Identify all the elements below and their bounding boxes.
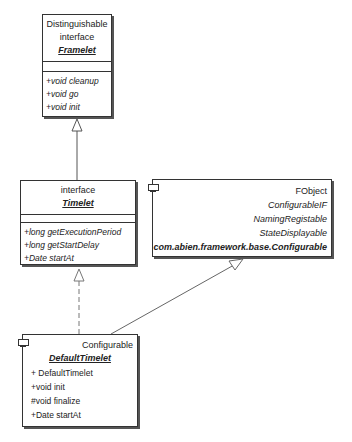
interface-label: NamingRegistable: [153, 212, 327, 226]
operation: +void go: [46, 88, 111, 101]
operation: #void finalize: [31, 394, 137, 408]
attributes-compartment: [21, 214, 135, 222]
class-label: FObject: [153, 184, 327, 198]
interface-label: StateDisplayable: [153, 226, 327, 240]
class-name: Framelet: [43, 44, 111, 57]
operation: +void cleanup: [46, 75, 111, 88]
operation: +void init: [46, 101, 111, 114]
component-icon: [18, 339, 29, 346]
stereotype: interface: [21, 184, 135, 197]
operation: +long getExecutionPeriod: [24, 226, 135, 239]
stereotype: Configurable: [23, 335, 137, 352]
class-default-timelet[interactable]: Configurable DefaultTimelet + DefaultTim…: [22, 334, 138, 427]
component-icon: [148, 184, 159, 191]
operation: +Date startAt: [24, 252, 135, 265]
class-name: Timelet: [21, 197, 135, 210]
operations-compartment: + DefaultTimelet +void init #void finali…: [23, 365, 137, 422]
operation: +long getStartDelay: [24, 239, 135, 252]
operations-compartment: +void cleanup +void go +void init: [43, 71, 111, 114]
operation: +Date startAt: [31, 408, 137, 422]
attributes-compartment: [43, 61, 111, 71]
class-timelet[interactable]: interface Timelet +long getExecutionPeri…: [20, 180, 136, 265]
class-framelet[interactable]: Distinguishable interface Framelet +void…: [42, 14, 112, 117]
stereotype: interface: [43, 31, 111, 44]
operation: + DefaultTimelet: [31, 366, 137, 380]
operation: +void init: [31, 380, 137, 394]
stereotype: Distinguishable: [43, 18, 111, 31]
class-header: Distinguishable interface Framelet: [43, 15, 111, 57]
class-configurable[interactable]: FObject ConfigurableIF NamingRegistable …: [152, 179, 332, 257]
operations-compartment: +long getExecutionPeriod +long getStartD…: [21, 222, 135, 265]
class-name: com.abien.framework.base.Configurable: [153, 240, 327, 254]
class-name: DefaultTimelet: [23, 352, 137, 365]
interface-label: ConfigurableIF: [153, 198, 327, 212]
class-header: interface Timelet: [21, 181, 135, 210]
